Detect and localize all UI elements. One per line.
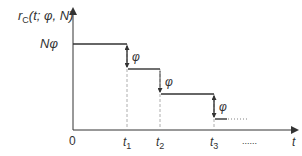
step-function-diagram: rC(t; φ, N) Nφ φ φ φ 0 t1 t2 t3 ...... t <box>0 0 302 156</box>
origin-label: 0 <box>69 134 76 148</box>
step-label-3: φ <box>219 100 227 114</box>
y-axis-label: rC(t; φ, N) <box>18 8 73 25</box>
tick-label-t2: t2 <box>156 135 164 151</box>
x-axis-label: t <box>292 135 296 149</box>
tick-label-t3: t3 <box>210 135 218 151</box>
step-label-2: φ <box>165 75 173 89</box>
step-label-1: φ <box>132 50 140 64</box>
continuation-dots: ...... <box>242 136 257 146</box>
initial-level-label: Nφ <box>40 36 58 51</box>
tick-label-t1: t1 <box>123 135 131 151</box>
